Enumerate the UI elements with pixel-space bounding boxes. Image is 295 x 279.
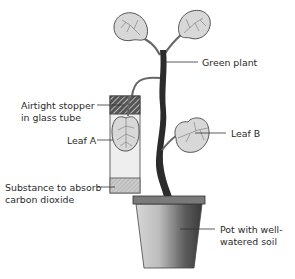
top-left-leaf [114,13,148,41]
co2-absorber [110,178,140,193]
plant-experiment-diagram: Green plant Airtight stopper in glass tu… [0,0,295,279]
label-absorb-line1: Substance to absorb [5,182,102,193]
pot [133,196,205,268]
label-stopper-line1: Airtight stopper [21,100,95,111]
leaf-b [175,118,209,152]
leaf-a [112,117,139,151]
label-pot-line1: Pot with well- [220,224,283,235]
label-leaf-a: Leaf A [67,135,97,146]
top-right-leaf [179,10,211,39]
branch-right [164,33,183,55]
label-green-plant: Green plant [202,57,258,68]
label-absorb-line2: carbon dioxide [5,194,74,205]
label-stopper-line2: in glass tube [21,112,81,123]
label-leaf-b: Leaf B [231,128,260,139]
stem [156,50,172,197]
label-pot-line2: watered soil [220,236,277,247]
